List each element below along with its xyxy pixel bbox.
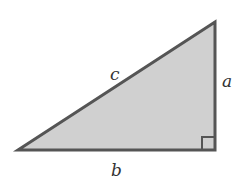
- horizontal-leg-label-b: b: [111, 160, 122, 176]
- hypotenuse-label-c: c: [110, 64, 120, 84]
- triangle-shape: [18, 22, 215, 150]
- right-triangle-diagram: c a b: [0, 0, 245, 176]
- vertical-leg-label-a: a: [222, 71, 232, 91]
